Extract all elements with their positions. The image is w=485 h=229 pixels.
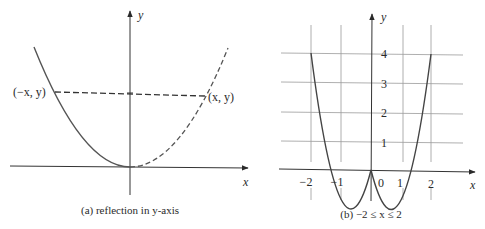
panel-a: y x (−x, y) (x, y) (a) reflection in y-a… bbox=[10, 8, 249, 217]
svg-text:3: 3 bbox=[381, 77, 387, 91]
panel-b: 4 3 2 1 −2 −1 0 1 2 y x (b) −2 ≤ x ≤ 2 bbox=[279, 10, 476, 221]
svg-text:1: 1 bbox=[381, 136, 387, 150]
svg-text:−1: −1 bbox=[331, 175, 344, 189]
point-left-label: (−x, y) bbox=[13, 85, 46, 99]
x-axis-label: x bbox=[469, 178, 476, 192]
point-right-label: (x, y) bbox=[208, 90, 234, 104]
svg-text:0: 0 bbox=[378, 176, 384, 190]
x-axis-label: x bbox=[242, 175, 249, 189]
caption-b: (b) −2 ≤ x ≤ 2 bbox=[340, 208, 401, 221]
y-tick-labels: 4 3 2 1 bbox=[381, 47, 387, 150]
figure-canvas: y x (−x, y) (x, y) (a) reflection in y-a… bbox=[0, 0, 485, 229]
parabola-left-branch bbox=[34, 47, 130, 167]
y-axis-label: y bbox=[380, 10, 387, 24]
parabola-reflected-branch bbox=[130, 48, 228, 167]
caption-a: (a) reflection in y-axis bbox=[81, 204, 179, 217]
y-axis-label: y bbox=[137, 8, 144, 22]
svg-text:2: 2 bbox=[428, 177, 434, 191]
x-axis bbox=[279, 169, 475, 172]
svg-text:2: 2 bbox=[381, 106, 387, 120]
svg-text:1: 1 bbox=[397, 176, 403, 190]
svg-text:4: 4 bbox=[381, 47, 387, 61]
svg-text:−2: −2 bbox=[300, 175, 313, 189]
